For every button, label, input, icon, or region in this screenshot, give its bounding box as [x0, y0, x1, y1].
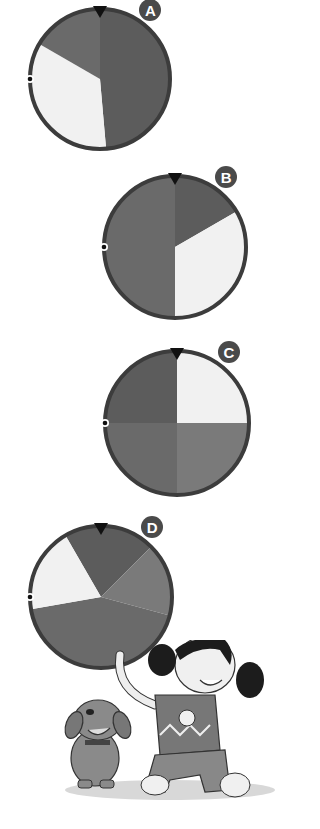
- spinner-b: [96, 168, 254, 326]
- girl-and-dog-illustration: [60, 640, 280, 829]
- spinner-pivot-dot-icon: [28, 595, 33, 600]
- spinner-a: [22, 1, 178, 157]
- spinner-c: [97, 343, 257, 503]
- dog-icon: [62, 700, 135, 788]
- spinner-pivot-dot-icon: [103, 421, 108, 426]
- spinner-sector: [100, 9, 170, 149]
- girl-icon: [119, 640, 264, 797]
- spinner-sector: [104, 176, 175, 318]
- spinner-pivot-dot-icon: [28, 77, 33, 82]
- spinner-pivot-dot-icon: [102, 245, 107, 250]
